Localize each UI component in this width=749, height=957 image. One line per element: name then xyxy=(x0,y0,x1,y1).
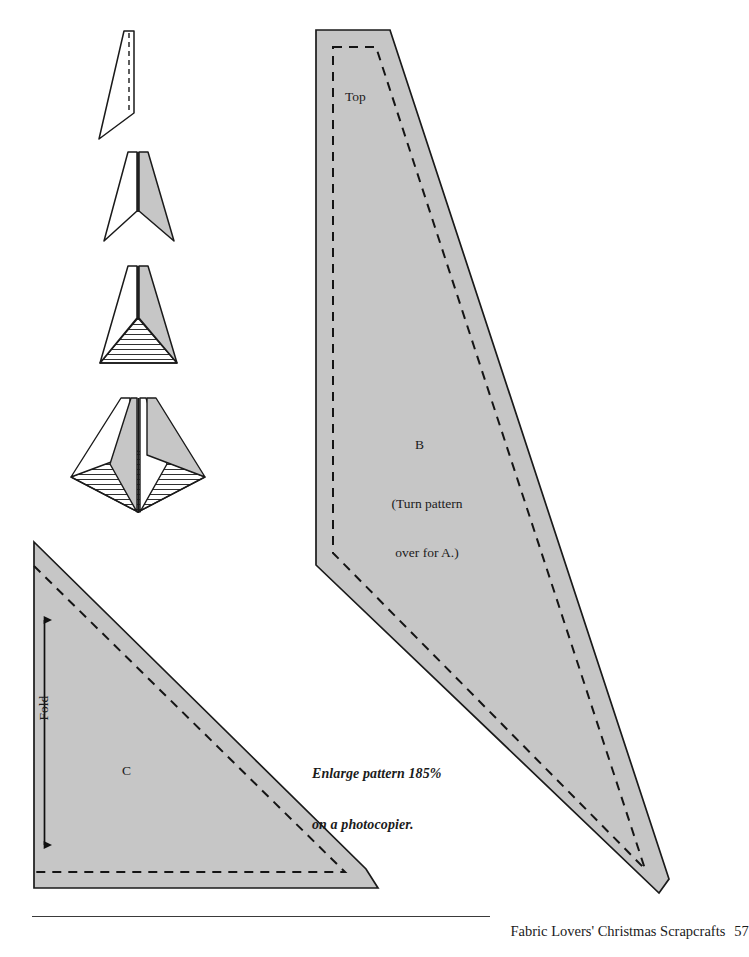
assembly-diagram-step-1 xyxy=(99,31,134,139)
footer: Fabric Lovers' Christmas Scrapcrafts57 xyxy=(496,905,749,957)
enlarge-instruction: Enlarge pattern 185% on a photocopier. xyxy=(312,731,442,868)
pattern-B-note: (Turn pattern over for A.) xyxy=(367,463,487,595)
pattern-B-note-line-2: over for A.) xyxy=(367,545,487,561)
footer-page-number: 57 xyxy=(734,923,749,939)
pattern-B-note-line-1: (Turn pattern xyxy=(367,496,487,512)
footer-book-title: Fabric Lovers' Christmas Scrapcrafts xyxy=(511,923,726,939)
assembly-diagram-step-3 xyxy=(100,266,177,363)
fold-label: Fold xyxy=(36,696,52,721)
assembly-diagram-step-2 xyxy=(104,152,174,241)
enlarge-instruction-line-1: Enlarge pattern 185% xyxy=(312,765,442,782)
enlarge-instruction-line-2: on a photocopier. xyxy=(312,816,442,833)
pattern-B-label: B xyxy=(415,437,424,453)
pattern-C-label: C xyxy=(122,763,131,779)
pattern-B-top-label: Top xyxy=(345,89,366,105)
assembly-diagram-step-4 xyxy=(71,398,205,513)
